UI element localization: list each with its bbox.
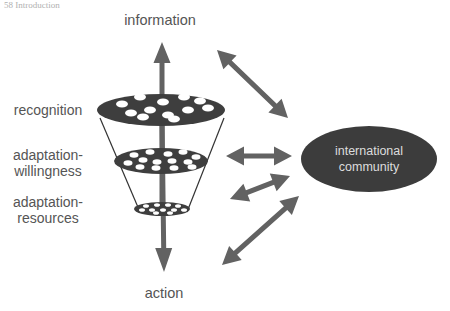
disc-hole (179, 149, 188, 155)
resources-community-arrow (230, 174, 290, 202)
disc-hole (125, 110, 137, 117)
disc-hole (188, 164, 197, 170)
international-community-ellipse (301, 126, 437, 192)
label-action: action (145, 285, 184, 301)
disc-hole (168, 116, 180, 123)
disc-hole (143, 204, 149, 208)
label-information: information (124, 12, 196, 28)
disc-hole (202, 105, 214, 112)
disc-hole (116, 101, 128, 108)
disc-hole (152, 165, 161, 171)
disc-hole (175, 204, 181, 208)
funnel-diagram: 58 Introduction international community … (0, 0, 450, 311)
disc-hole (136, 164, 145, 170)
page-header-clipped: 58 Introduction (4, 0, 60, 10)
disc-hole (178, 94, 190, 101)
community-label-line2: community (339, 160, 400, 174)
willingness-disc (114, 148, 208, 174)
disc-hole (137, 114, 149, 121)
disc-hole (149, 208, 155, 212)
action-community-arrow (222, 196, 299, 265)
disc-hole (139, 208, 145, 212)
willingness-community-arrow (226, 147, 292, 166)
label-adaptation-willingness-1: adaptation- (13, 147, 83, 163)
disc-hole (160, 208, 166, 212)
disc-hole (139, 157, 148, 163)
disc-hole (181, 208, 187, 212)
disc-hole (168, 158, 177, 164)
disc-hole (157, 99, 169, 106)
disc-hole (146, 149, 155, 155)
label-recognition: recognition (14, 102, 83, 118)
community-link-arrows (217, 50, 299, 265)
disc-hole (182, 107, 194, 114)
disc-hole (134, 94, 146, 101)
community-label-line1: international (335, 144, 403, 158)
arrow-down-to-action (155, 118, 172, 272)
resources-disc (134, 202, 190, 216)
disc-hole (153, 211, 159, 215)
disc-hole (164, 151, 173, 157)
label-adaptation-resources-1: adaptation- (13, 194, 83, 210)
label-adaptation-willingness-2: willingness (13, 163, 82, 179)
disc-hole (184, 159, 193, 165)
disc-hole (165, 203, 171, 207)
label-adaptation-resources-2: resources (17, 210, 78, 226)
disc-hole (154, 203, 160, 207)
disc-hole (144, 107, 156, 114)
disc-hole (124, 160, 133, 166)
info-community-arrow (217, 50, 288, 118)
recognition-disc (97, 94, 225, 127)
disc-hole (167, 211, 173, 215)
disc-hole (194, 98, 206, 105)
disc-hole (130, 152, 139, 158)
disc-hole (171, 208, 177, 212)
international-community-node: international community (301, 126, 437, 192)
disc-hole (153, 159, 162, 165)
disc-hole (170, 165, 179, 171)
disc-hole (192, 154, 201, 160)
